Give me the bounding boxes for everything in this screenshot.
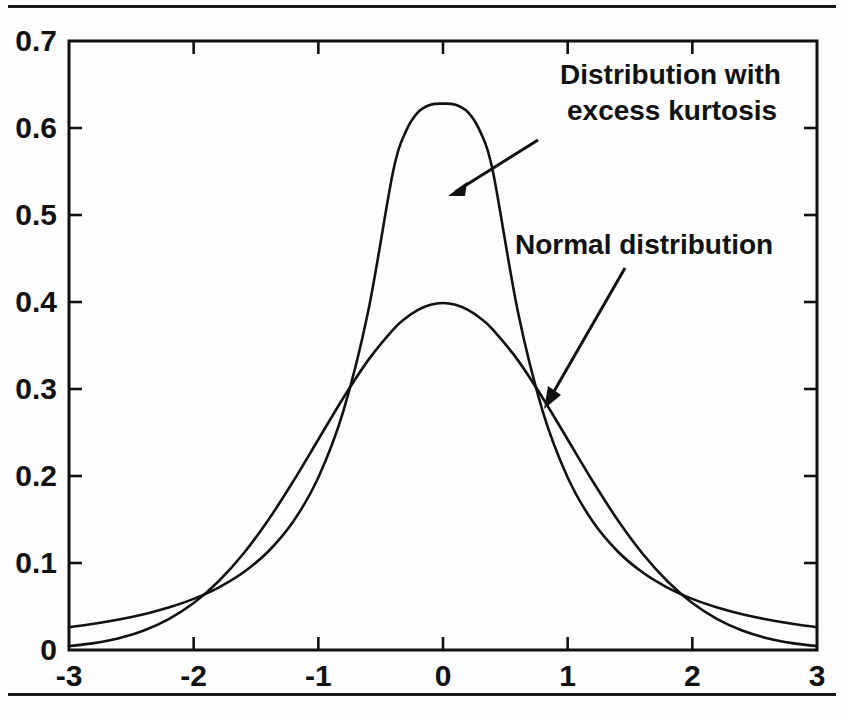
kurtosis-comparison-chart: -3-2-10123 00.10.20.30.40.50.60.7 Distri… — [0, 0, 844, 713]
normal-distribution-leader — [544, 268, 625, 409]
annotation-excess-kurtosis-line2: excess kurtosis — [567, 95, 777, 126]
x-tick-label: -3 — [56, 659, 83, 692]
x-tick-label: -1 — [305, 659, 332, 692]
y-tick-label: 0.6 — [15, 111, 57, 144]
y-tick-label: 0.7 — [15, 24, 57, 57]
x-axis-ticks — [194, 41, 693, 650]
plot-frame — [69, 41, 817, 650]
figure-page: -3-2-10123 00.10.20.30.40.50.60.7 Distri… — [0, 0, 844, 713]
x-tick-label: -2 — [180, 659, 207, 692]
x-tick-label: 0 — [435, 659, 452, 692]
y-tick-label: 0 — [40, 633, 57, 666]
y-tick-label: 0.3 — [15, 372, 57, 405]
y-tick-label: 0.4 — [15, 285, 57, 318]
chart-svg: -3-2-10123 00.10.20.30.40.50.60.7 Distri… — [0, 0, 844, 713]
excess-kurtosis-curve — [69, 104, 817, 628]
y-tick-label: 0.5 — [15, 198, 57, 231]
x-axis-tick-labels: -3-2-10123 — [56, 659, 826, 692]
x-tick-label: 2 — [684, 659, 701, 692]
x-tick-label: 1 — [559, 659, 576, 692]
annotation-excess-kurtosis-line1: Distribution with — [560, 59, 781, 90]
normal-distribution-curve — [69, 303, 817, 646]
annotation-normal-distribution-line1: Normal distribution — [515, 229, 773, 260]
y-axis-ticks — [69, 128, 817, 563]
y-tick-label: 0.2 — [15, 459, 57, 492]
arrowhead-icon — [448, 182, 467, 196]
x-tick-label: 3 — [809, 659, 826, 692]
y-tick-label: 0.1 — [15, 546, 57, 579]
arrowhead-icon — [544, 386, 561, 409]
excess-kurtosis-leader — [448, 140, 538, 196]
y-axis-tick-labels: 00.10.20.30.40.50.60.7 — [15, 24, 57, 666]
